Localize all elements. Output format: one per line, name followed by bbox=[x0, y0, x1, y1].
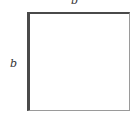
square-shape bbox=[27, 12, 130, 111]
top-side-label: b bbox=[71, 0, 78, 6]
left-side-label: b bbox=[10, 58, 17, 69]
